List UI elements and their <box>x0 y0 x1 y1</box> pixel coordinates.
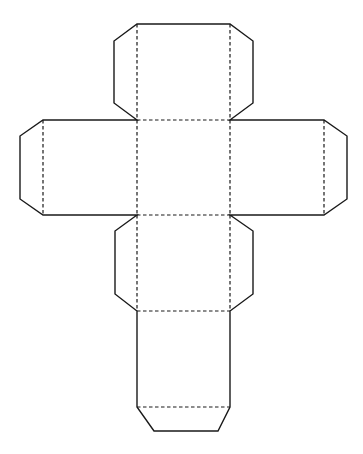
cut-outline <box>20 24 347 431</box>
cube-net-diagram <box>0 0 363 454</box>
